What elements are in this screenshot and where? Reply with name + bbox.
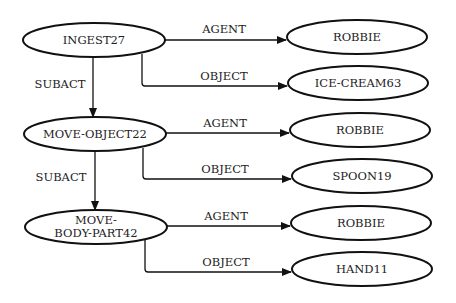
node-label: ICE-CREAM63 <box>315 76 401 90</box>
node-robbie-agent-2: ROBBIE <box>290 113 430 147</box>
node-hand11: HAND11 <box>292 252 432 286</box>
node-label: ROBBIE <box>337 216 385 230</box>
cd-diagram: AGENT OBJECT SUBACT AGENT OBJECT SUBACT … <box>0 0 456 303</box>
edge-label-agent: AGENT <box>203 209 248 223</box>
node-label-line2: BODY-PART42 <box>54 226 137 240</box>
node-ice-cream63: ICE-CREAM63 <box>288 66 428 100</box>
node-robbie-agent-3: ROBBIE <box>291 206 431 240</box>
node-label: MOVE-OBJECT22 <box>43 127 147 141</box>
edge-label-object: OBJECT <box>200 69 248 83</box>
edge-label-agent: AGENT <box>202 116 247 130</box>
edge-label-agent: AGENT <box>201 22 246 36</box>
node-move-object22: MOVE-OBJECT22 <box>24 117 166 151</box>
node-label-line1: MOVE- <box>75 213 117 227</box>
node-label: ROBBIE <box>336 123 384 137</box>
edge-label-subact: SUBACT <box>36 170 87 184</box>
node-ingest27: INGEST27 <box>23 23 165 57</box>
node-label: SPOON19 <box>332 169 391 183</box>
edge-label-object: OBJECT <box>202 255 250 269</box>
node-label: HAND11 <box>336 262 388 276</box>
node-move-body-part42: MOVE- BODY-PART42 <box>25 210 167 244</box>
node-label: ROBBIE <box>333 30 381 44</box>
node-robbie-agent-1: ROBBIE <box>287 20 427 54</box>
edge-label-subact: SUBACT <box>35 77 86 91</box>
edge-label-object: OBJECT <box>201 162 249 176</box>
node-spoon19: SPOON19 <box>292 159 432 193</box>
node-label: INGEST27 <box>63 33 125 47</box>
